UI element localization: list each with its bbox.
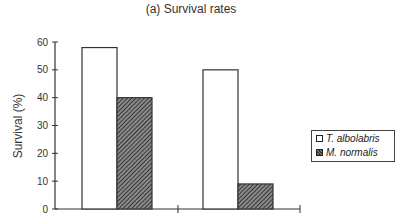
y-axis-label: Survival (%) xyxy=(11,94,25,159)
bars xyxy=(82,48,273,209)
legend-label: T. albolabris xyxy=(326,133,380,144)
legend-swatch-hatched-icon xyxy=(316,149,323,156)
legend-label: M. normalis xyxy=(326,147,378,158)
bar-t-albolabris xyxy=(203,70,238,209)
bar-t-albolabris xyxy=(82,48,117,209)
bar-m-normalis xyxy=(117,98,152,209)
bar-m-normalis xyxy=(238,184,273,209)
legend: T. albolabris M. normalis xyxy=(311,130,395,162)
legend-swatch-white-icon xyxy=(316,135,323,142)
bar-chart: 0102030405060 Survival (%) xyxy=(0,0,402,221)
y-tick-label: 10 xyxy=(37,176,49,187)
y-tick-label: 60 xyxy=(37,37,49,48)
legend-item-t-albolabris: T. albolabris xyxy=(316,132,394,145)
y-axis: 0102030405060 xyxy=(37,37,58,215)
legend-item-m-normalis: M. normalis xyxy=(316,146,394,159)
y-tick-label: 50 xyxy=(37,64,49,75)
y-tick-label: 20 xyxy=(37,148,49,159)
y-tick-label: 40 xyxy=(37,92,49,103)
y-tick-label: 30 xyxy=(37,120,49,131)
y-tick-label: 0 xyxy=(42,204,48,215)
